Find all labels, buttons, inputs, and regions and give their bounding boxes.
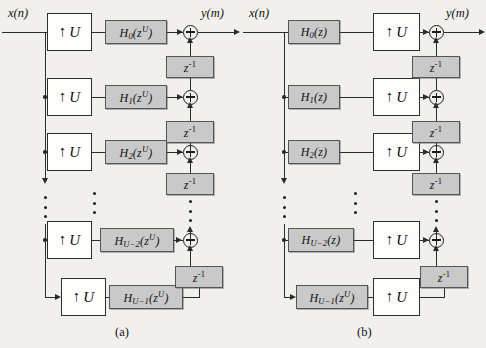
input-label-a: x(n)	[8, 6, 28, 21]
delay-a-1: z-1	[166, 121, 214, 143]
input-bus-b	[284, 32, 285, 182]
delay-a-2: z-1	[166, 173, 214, 195]
up-arrow-icon: ↑	[59, 89, 67, 104]
link-wire-b-2	[340, 152, 373, 153]
adder-up-arrow-a-3	[187, 245, 193, 251]
delay-label-a-3: z-1	[193, 269, 205, 286]
link-wire-a-0	[92, 32, 105, 33]
input-bus-lower-a	[45, 224, 46, 297]
up-arrow-icon: ↑	[386, 232, 394, 247]
delay-ellipsis-b	[435, 200, 439, 222]
adder-up-arrow-b-0	[433, 37, 439, 43]
delay-adder-wire-b-1	[436, 143, 437, 155]
filter-label-a-3: HU−2(zU)	[114, 232, 159, 249]
input-wire-b	[243, 32, 285, 33]
adder-up-arrow-a-2b	[187, 226, 193, 232]
filter-label-b-2: H2(z)	[301, 145, 328, 160]
filter-b-3: HU−2(z)	[288, 228, 354, 252]
delay-a-0: z-1	[166, 56, 214, 78]
up-arrow-icon: ↑	[386, 24, 394, 39]
input-bus-ellipsis-b	[283, 196, 287, 218]
upsampler-out-wire-b-4	[420, 297, 445, 298]
filter-b-2: H2(z)	[288, 140, 340, 164]
input-bus-a	[45, 32, 46, 182]
adder-up-arrow-b-1	[433, 102, 439, 108]
input-label-b: x(n)	[249, 6, 269, 21]
filter-label-b-1: H1(z)	[301, 90, 328, 105]
delay-label-a-2: z-1	[184, 176, 196, 193]
filter-label-b-4: HU−1(zU)	[309, 289, 354, 306]
adder-up-arrow-a-2	[187, 157, 193, 163]
delay-ellipsis-a	[189, 200, 193, 222]
diagram-panel-b: x(n) y(m) H0(z) ↑U H1(z) ↑U	[243, 0, 486, 348]
adder-up-arrow-b-2	[433, 157, 439, 163]
upsampler-b-3: ↑U	[373, 221, 420, 259]
link-wire-b-1	[340, 97, 373, 98]
link-wire-a-2	[92, 152, 105, 153]
adder-in-arrow-a-3	[176, 237, 182, 243]
filter-label-a-1: H1(zU)	[120, 89, 153, 106]
delay-adder-wire-a-1	[190, 143, 191, 155]
filter-label-a-4: HU−1(zU)	[123, 289, 168, 306]
upsampler-a-2: ↑U	[47, 133, 92, 171]
delay-b-0: z-1	[412, 56, 460, 78]
input-bus-arrow-b	[281, 178, 287, 184]
up-arrow-icon: ↑	[73, 289, 81, 304]
delay-b-2: z-1	[412, 173, 460, 195]
delay-label-a-0: z-1	[184, 59, 196, 76]
output-label-b: y(m)	[446, 6, 469, 21]
input-wire-a	[2, 32, 46, 33]
caption-a: (a)	[115, 325, 129, 340]
middle-ellipsis-b	[353, 192, 357, 214]
link-wire-a-3	[92, 240, 100, 241]
delay-adder-wire-b-0	[436, 78, 437, 90]
filter-a-3: HU−2(zU)	[100, 228, 174, 252]
link-wire-b-3	[354, 240, 373, 241]
up-arrow-icon: ↑	[59, 144, 67, 159]
link-wire-a-1	[92, 97, 105, 98]
delay-label-b-3: z-1	[438, 269, 450, 286]
up-arrow-icon: ↑	[386, 289, 394, 304]
filter-label-a-2: H2(zU)	[120, 144, 153, 161]
up-arrow-icon: ↑	[59, 232, 67, 247]
delay-label-b-2: z-1	[430, 176, 442, 193]
adder-up-arrow-a-0	[187, 37, 193, 43]
filter-label-b-3: HU−2(z)	[302, 233, 341, 248]
filter-a-0: H0(zU)	[105, 20, 167, 44]
filter-label-a-0: H0(zU)	[120, 24, 153, 41]
up-arrow-icon: ↑	[386, 144, 394, 159]
output-label-a: y(m)	[201, 6, 224, 21]
adder-up-arrow-b-2b	[433, 226, 439, 232]
up-arrow-icon: ↑	[59, 24, 67, 39]
output-wire-b	[444, 32, 480, 33]
up-arrow-icon: ↑	[386, 89, 394, 104]
input-bus-ellipsis-a	[44, 196, 48, 218]
upsampler-a-3: ↑U	[47, 221, 92, 259]
upsampler-b-4: ↑U	[373, 278, 420, 316]
output-arrow-a	[234, 29, 240, 35]
delay-label-b-1: z-1	[430, 124, 442, 141]
delay-adder-wire-a-0	[190, 78, 191, 90]
output-arrow-b	[479, 29, 485, 35]
filter-a-4: HU−1(zU)	[109, 285, 183, 309]
figure-canvas: x(n) y(m) ↑U H0(zU) ↑U	[0, 0, 486, 348]
delay-label-a-1: z-1	[184, 124, 196, 141]
upsampler-b-1: ↑U	[373, 78, 420, 116]
filter-b-4: HU−1(zU)	[296, 285, 368, 309]
link-wire-b-0	[340, 32, 373, 33]
delay-a-3: z-1	[175, 266, 223, 288]
upsampler-a-0: ↑U	[47, 13, 92, 51]
middle-ellipsis-a	[92, 192, 96, 214]
delay-b-3: z-1	[420, 266, 468, 288]
upsampler-a-1: ↑U	[47, 78, 92, 116]
upsampler-a-4: ↑U	[61, 278, 106, 316]
filter-b-0: H0(z)	[288, 20, 340, 44]
output-wire-a	[198, 32, 235, 33]
caption-b: (b)	[357, 325, 372, 340]
filter-a-1: H1(zU)	[105, 85, 167, 109]
filter-a-2: H2(zU)	[105, 140, 167, 164]
adder-up-arrow-a-1	[187, 102, 193, 108]
filter-b-1: H1(z)	[288, 85, 340, 109]
delay-b-1: z-1	[412, 121, 460, 143]
diagram-panel-a: x(n) y(m) ↑U H0(zU) ↑U	[0, 0, 243, 348]
